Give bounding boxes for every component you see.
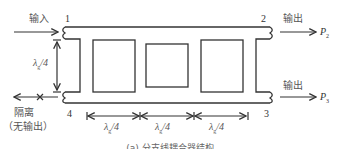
- slot-2: [146, 44, 188, 87]
- right-arm: [256, 39, 270, 92]
- figure-caption: (a) 分支线耦合器结构: [0, 141, 340, 149]
- port-3-number: 3: [264, 108, 269, 120]
- h-dim-label-2: λg/4: [155, 121, 170, 137]
- port-1-number: 1: [65, 13, 70, 25]
- slot-3: [201, 40, 243, 92]
- port-4-number: 4: [67, 108, 72, 120]
- port2-break: [270, 27, 272, 39]
- power-p2: P2: [320, 26, 329, 42]
- power-p3: P3: [320, 91, 329, 107]
- output-label-p2: 输出: [283, 13, 303, 25]
- h-dim-label-3: λg/4: [209, 121, 224, 137]
- h-dim-label-1: λg/4: [104, 121, 119, 137]
- isolated-label: 隔离: [14, 107, 34, 119]
- no-output-note: （无输出）: [3, 121, 53, 133]
- port4-break: [63, 92, 65, 103]
- port3-break: [270, 92, 272, 103]
- slot-1: [93, 40, 135, 92]
- output-label-p3: 输出: [283, 80, 303, 92]
- vertical-dim-label: λg/4: [33, 57, 48, 73]
- input-label: 输入: [29, 13, 49, 25]
- port1-break: [63, 27, 65, 39]
- left-arm: [65, 39, 80, 92]
- port-2-number: 2: [261, 13, 266, 25]
- coupler-structure: [63, 27, 273, 103]
